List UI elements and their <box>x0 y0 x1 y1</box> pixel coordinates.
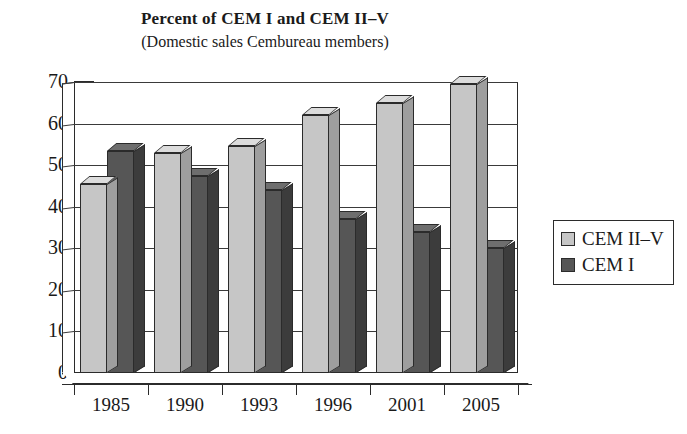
bar-side <box>134 144 145 373</box>
bar-side <box>356 212 367 373</box>
legend-swatch-light <box>561 232 575 246</box>
bars-layer <box>74 82 518 373</box>
bar-1985-series1 <box>80 184 107 373</box>
bar-2005-series1 <box>450 84 477 373</box>
chart-title: Percent of CEM I and CEM II–V <box>0 8 530 30</box>
bar-face <box>302 115 329 373</box>
bar-side <box>282 183 293 373</box>
x-tick-label-1990: 1990 <box>166 392 204 418</box>
legend-item-2[interactable]: CEM I <box>561 252 664 278</box>
chart-subtitle: (Domestic sales Cembureau members) <box>0 31 530 53</box>
bar-1996-series1 <box>302 115 329 373</box>
bar-side <box>403 96 414 373</box>
x-tick-label-1996: 1996 <box>314 392 352 418</box>
legend-label: CEM I <box>582 254 634 276</box>
bar-side <box>107 177 118 373</box>
bar-2001-series1 <box>376 103 403 373</box>
legend-swatch-dark <box>561 258 575 272</box>
bar-face <box>154 153 181 373</box>
bar-side <box>181 146 192 373</box>
title-block: Percent of CEM I and CEM II–V (Domestic … <box>0 8 530 53</box>
bar-side <box>477 77 488 373</box>
x-axis-labels: 198519901993199620012005 <box>62 392 532 422</box>
bar-side <box>329 108 340 373</box>
x-tick-label-2001: 2001 <box>388 392 426 418</box>
x-tick-label-1993: 1993 <box>240 392 278 418</box>
bar-face <box>450 84 477 373</box>
bar-side <box>430 225 441 373</box>
x-tick-label-2005: 2005 <box>462 392 500 418</box>
x-tick-label-1985: 1985 <box>92 392 130 418</box>
chart-legend: CEM II–VCEM I <box>553 220 674 285</box>
bar-side <box>208 169 219 373</box>
legend-label: CEM II–V <box>582 228 664 250</box>
chart-figure: Percent of CEM I and CEM II–V (Domestic … <box>0 0 687 434</box>
bar-side <box>504 241 515 373</box>
legend-item-1[interactable]: CEM II–V <box>561 226 664 252</box>
bar-side <box>255 140 266 373</box>
x-axis <box>62 384 532 385</box>
plot-floor <box>62 372 529 384</box>
bar-1993-series1 <box>228 146 255 373</box>
bar-face <box>228 146 255 373</box>
bar-1990-series1 <box>154 153 181 373</box>
bar-face <box>80 184 107 373</box>
bar-face <box>376 103 403 373</box>
plot-area <box>74 82 518 373</box>
